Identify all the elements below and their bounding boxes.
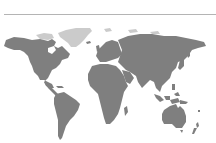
- map-widget: [0, 0, 216, 143]
- region-iceland: [86, 41, 91, 44]
- region-new-zealand[interactable]: [192, 122, 199, 134]
- region-madagascar: [124, 106, 128, 116]
- region-north-america[interactable]: [4, 37, 70, 88]
- region-asia[interactable]: [118, 34, 206, 92]
- region-russian-arctic-islands: [128, 29, 160, 34]
- region-africa[interactable]: [88, 64, 128, 124]
- region-greenland[interactable]: [58, 28, 92, 47]
- region-tasmania: [180, 130, 183, 133]
- region-caribbean: [56, 86, 64, 88]
- region-philippines: [172, 84, 175, 90]
- region-indonesia[interactable]: [154, 92, 188, 104]
- region-arctic-islands: [36, 33, 54, 40]
- region-pacific-island: [198, 110, 200, 112]
- region-south-america[interactable]: [54, 92, 80, 140]
- region-europe[interactable]: [96, 40, 122, 62]
- region-svalbard: [104, 28, 112, 32]
- region-australia[interactable]: [162, 104, 186, 128]
- world-map: [0, 0, 216, 143]
